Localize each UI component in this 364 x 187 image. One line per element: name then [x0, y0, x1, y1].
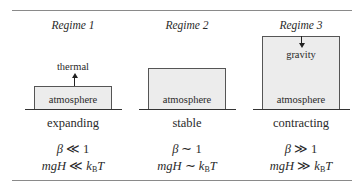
beta-relation-symbol: ∼ [181, 142, 192, 156]
regime-state: contracting [244, 116, 358, 131]
bottom-rule [12, 180, 352, 181]
beta-value: 1 [83, 142, 89, 156]
atmosphere-box: atmosphere [34, 86, 112, 109]
ground-line [25, 109, 122, 110]
ground-line [253, 109, 350, 110]
energy-relation: mgH ∼ kBT [130, 158, 244, 174]
regime-2-column: Regime 2 atmosphere stable β ∼ 1 mgH ∼ k… [130, 0, 244, 187]
beta-relation: β ∼ 1 [130, 141, 244, 157]
beta-relation-symbol: ≪ [66, 142, 80, 156]
regime-state: expanding [16, 116, 130, 131]
beta-relation-symbol: ≫ [294, 142, 308, 156]
energy-lhs: mgH [157, 159, 181, 173]
energy-relation: mgH ≪ kBT [16, 158, 130, 174]
ground-line [139, 109, 236, 110]
arrow-down-icon [301, 36, 302, 45]
regime-3-column: Regime 3 gravity atmosphere contracting … [244, 0, 358, 187]
regime-title: Regime 3 [244, 19, 358, 31]
arrow-up-icon [74, 76, 75, 86]
regime-title: Regime 1 [16, 19, 130, 31]
regime-title: Regime 2 [130, 19, 244, 31]
energy-lhs: mgH [270, 159, 294, 173]
beta-symbol: β [172, 142, 178, 156]
atmosphere-label: atmosphere [149, 94, 225, 105]
beta-value: 1 [196, 142, 202, 156]
temperature-T: T [210, 159, 217, 173]
temperature-T: T [97, 159, 104, 173]
atmosphere-label: atmosphere [263, 94, 339, 105]
regime-state: stable [130, 116, 244, 131]
gravity-force-label: gravity [263, 49, 339, 60]
regime-1-column: Regime 1 thermal atmosphere expanding β … [16, 0, 130, 187]
thermal-force-label: thermal [16, 61, 130, 72]
energy-relation-symbol: ∼ [185, 159, 196, 173]
beta-symbol: β [57, 142, 63, 156]
beta-value: 1 [311, 142, 317, 156]
energy-relation-symbol: ≫ [297, 159, 311, 173]
energy-relation-symbol: ≪ [69, 159, 83, 173]
beta-symbol: β [285, 142, 291, 156]
energy-lhs: mgH [42, 159, 66, 173]
beta-relation: β ≫ 1 [244, 141, 358, 157]
temperature-T: T [325, 159, 332, 173]
beta-relation: β ≪ 1 [16, 141, 130, 157]
energy-relation: mgH ≫ kBT [244, 158, 358, 174]
atmosphere-label: atmosphere [35, 94, 111, 105]
atmosphere-box: atmosphere [148, 68, 226, 109]
